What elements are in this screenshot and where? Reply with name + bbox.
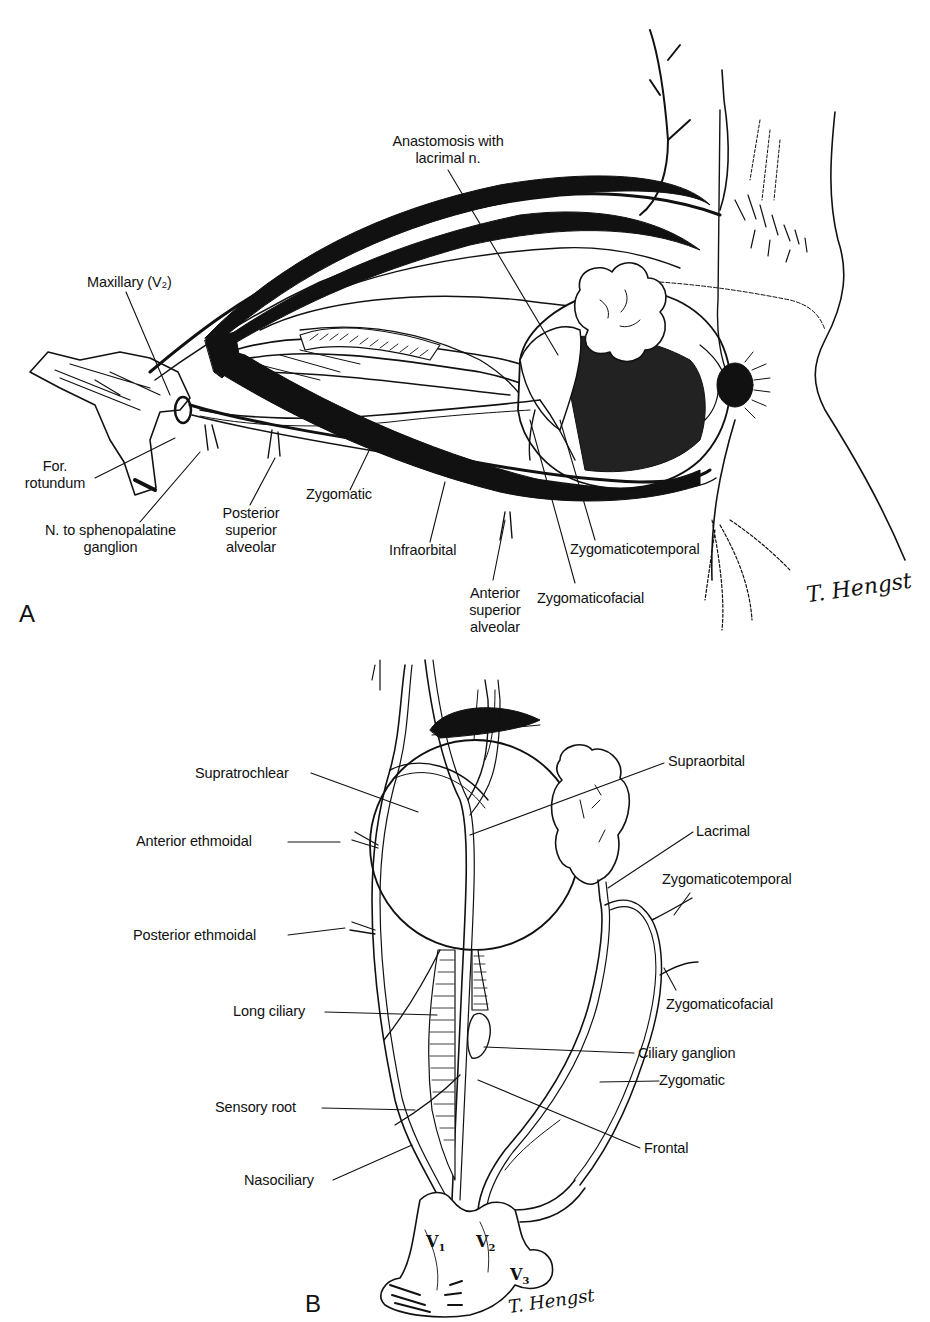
label-sphenopalatine-line1: N. to sphenopalatine xyxy=(28,522,193,539)
label-v3-mandibular: V3 xyxy=(510,1265,529,1286)
label-anastomosis-lacrimal: Anastomosis with lacrimal n. xyxy=(368,133,528,167)
label-zygomaticofacial-a: Zygomaticofacial xyxy=(537,590,644,607)
label-anterior-superior-alveolar: Anterior superior alveolar xyxy=(455,585,535,636)
label-anterior-ethmoidal: Anterior ethmoidal xyxy=(136,833,252,850)
label-zygomaticofacial-b: Zygomaticofacial xyxy=(666,996,773,1013)
label-maxillary-v2: Maxillary (V₂) xyxy=(87,274,172,291)
label-ant-sup-alv-line2: superior xyxy=(455,602,535,619)
label-anastomosis-line2: lacrimal n. xyxy=(368,150,528,167)
v3-glyph: V xyxy=(510,1265,522,1284)
label-nasociliary: Nasociliary xyxy=(244,1172,314,1189)
panel-a-illustration xyxy=(0,0,930,660)
label-v2-maxillary: V2 xyxy=(476,1232,495,1253)
label-for-rotundum-line1: For. xyxy=(15,458,95,475)
label-anastomosis-line1: Anastomosis with xyxy=(368,133,528,150)
label-posterior-superior-alveolar: Posterior superior alveolar xyxy=(211,505,291,556)
panel-b-letter: B xyxy=(305,1290,321,1318)
v3-subscript: 3 xyxy=(522,1275,529,1286)
label-sensory-root: Sensory root xyxy=(215,1099,296,1116)
v2-glyph: V xyxy=(476,1232,488,1251)
label-post-sup-alv-line3: alveolar xyxy=(211,539,291,556)
v1-subscript: 1 xyxy=(438,1242,445,1253)
panel-a-letter: A xyxy=(19,600,35,628)
label-ant-sup-alv-line3: alveolar xyxy=(455,619,535,636)
label-lacrimal: Lacrimal xyxy=(696,823,750,840)
label-zygomaticotemporal-b: Zygomaticotemporal xyxy=(662,871,792,888)
label-zygomaticotemporal-a: Zygomaticotemporal xyxy=(570,541,700,558)
label-ant-sup-alv-line1: Anterior xyxy=(455,585,535,602)
label-zygomatic-b: Zygomatic xyxy=(659,1072,725,1089)
label-supratrochlear: Supratrochlear xyxy=(195,765,289,782)
label-for-rotundum-line2: rotundum xyxy=(15,475,95,492)
label-infraorbital: Infraorbital xyxy=(389,542,456,559)
label-frontal: Frontal xyxy=(644,1140,688,1157)
label-long-ciliary: Long ciliary xyxy=(233,1003,305,1020)
label-posterior-ethmoidal: Posterior ethmoidal xyxy=(133,927,256,944)
label-n-to-sphenopalatine-ganglion: N. to sphenopalatine ganglion xyxy=(28,522,193,556)
artist-signature-b: T. Hengst xyxy=(507,1284,596,1317)
label-v1-ophthalmic: V1 xyxy=(426,1232,445,1253)
anatomy-figure: A Anastomosis with lacrimal n. Maxillary… xyxy=(0,0,930,1322)
v1-glyph: V xyxy=(426,1232,438,1251)
label-zygomatic-a: Zygomatic xyxy=(306,486,372,503)
label-post-sup-alv-line2: superior xyxy=(211,522,291,539)
label-supraorbital: Supraorbital xyxy=(668,753,745,770)
label-sphenopalatine-line2: ganglion xyxy=(28,539,193,556)
label-post-sup-alv-line1: Posterior xyxy=(211,505,291,522)
label-for-rotundum: For. rotundum xyxy=(15,458,95,492)
v2-subscript: 2 xyxy=(488,1242,495,1253)
label-ciliary-ganglion: Ciliary ganglion xyxy=(638,1045,736,1062)
